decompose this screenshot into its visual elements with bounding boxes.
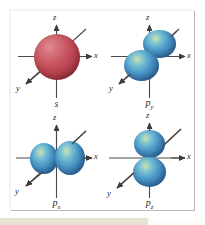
- py-orbital-lobe-near: [124, 50, 159, 81]
- pz-orbital-lobe-lower: [133, 157, 166, 187]
- orbital-label-px-sub: x: [57, 203, 60, 210]
- px-orbital-lobe-right: [55, 141, 85, 175]
- axis-label-z: z: [53, 113, 56, 122]
- axis-label-y: y: [16, 84, 20, 93]
- orbital-shapes-figure: z x y s z x y py: [0, 0, 205, 225]
- orbital-label-px: px: [10, 197, 103, 210]
- panel-px-orbital: z x y px: [10, 110, 103, 211]
- axis-label-x: x: [187, 152, 191, 161]
- pz-orbital-lobe-upper: [134, 130, 165, 158]
- px-orbital-lobe-left: [30, 143, 58, 174]
- axis-label-y: y: [15, 187, 19, 196]
- page-bottom-strip: [0, 218, 148, 225]
- page-bottom-strip-right: [148, 218, 205, 225]
- orbital-label-pz: pz: [103, 197, 196, 210]
- orbital-label-py-sub: y: [150, 103, 153, 110]
- orbital-label-pz-sub: z: [151, 203, 154, 210]
- axis-label-x: x: [187, 51, 191, 60]
- axis-label-y: y: [109, 84, 113, 93]
- panel-pz-orbital: z x y pz: [103, 110, 196, 211]
- panel-py-orbital: z x y py: [103, 10, 196, 111]
- panel-s-orbital: z x y s: [10, 10, 103, 111]
- axis-label-x: x: [94, 51, 98, 60]
- axis-label-x: x: [94, 152, 98, 161]
- s-orbital-sphere: [34, 34, 80, 80]
- axis-label-z: z: [53, 13, 56, 22]
- orbital-label-py: py: [103, 97, 196, 110]
- axis-label-z: z: [146, 111, 149, 120]
- axis-label-z: z: [146, 13, 149, 22]
- orbital-label-s-base: s: [55, 98, 59, 109]
- orbital-label-s: s: [10, 98, 103, 109]
